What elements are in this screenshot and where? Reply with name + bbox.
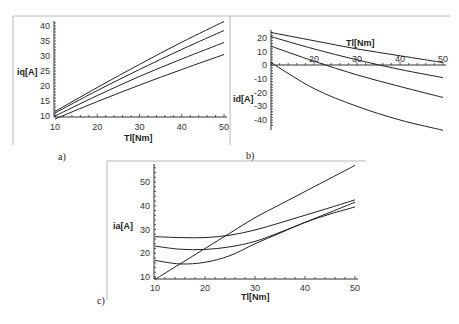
chart-panel-a: 102030405010152025303540 iq[A] Tl[Nm] a) <box>17 21 229 163</box>
panel-c-axes: 10203040501020304050 <box>140 164 360 293</box>
data-curve-curve-2 <box>55 31 224 114</box>
panel-b-xlabel: Tl[Nm] <box>346 38 375 48</box>
y-tick-label: 40 <box>40 21 50 31</box>
y-tick-label: 20 <box>257 33 267 43</box>
x-tick-label: 40 <box>177 122 187 132</box>
panel-b-label: b) <box>246 150 254 162</box>
data-curve-curve-1 <box>55 22 224 112</box>
y-tick-label: 0 <box>262 60 267 70</box>
panel-b-ylabel: id[A] <box>233 94 254 104</box>
y-tick-label: -10 <box>254 74 267 84</box>
data-curve-curve-3 <box>155 207 355 264</box>
x-tick-label: 20 <box>200 283 210 293</box>
y-tick-label: 25 <box>40 66 50 76</box>
x-tick-label: 20 <box>92 122 102 132</box>
panel-a-xlabel: Tl[Nm] <box>124 133 153 143</box>
x-tick-label: 10 <box>150 283 160 293</box>
y-tick-label: 20 <box>40 81 50 91</box>
y-tick-label: 30 <box>140 225 150 235</box>
y-tick-label: 40 <box>140 201 150 211</box>
panel-c-curves <box>155 165 355 279</box>
x-tick-label: 40 <box>300 283 310 293</box>
panel-c-xlabel: Tl[Nm] <box>241 292 270 302</box>
y-tick-label: 35 <box>40 36 50 46</box>
x-tick-label: 30 <box>134 122 144 132</box>
data-curve-curve-4 <box>155 165 355 279</box>
panel-c-label: c) <box>97 295 105 307</box>
y-tick-label: 30 <box>40 51 50 61</box>
y-tick-label: -20 <box>254 88 267 98</box>
y-tick-label: 50 <box>140 177 150 187</box>
x-tick-label: 10 <box>50 122 60 132</box>
y-tick-label: 20 <box>140 248 150 258</box>
panel-a-axes: 102030405010152025303540 <box>40 21 229 132</box>
y-tick-label: 10 <box>140 272 150 282</box>
y-tick-label: 15 <box>40 96 50 106</box>
x-tick-label: 50 <box>219 122 229 132</box>
y-tick-label: 10 <box>257 47 267 57</box>
panel-a-label: a) <box>58 151 66 163</box>
data-curve-curve-3 <box>55 43 224 117</box>
data-curve-curve-1 <box>155 200 355 238</box>
y-tick-label: 10 <box>40 111 50 121</box>
x-tick-label: 50 <box>350 283 360 293</box>
y-tick-label: -30 <box>254 101 267 111</box>
panel-a-ylabel: iq[A] <box>17 67 38 77</box>
figure: 102030405010152025303540 iq[A] Tl[Nm] a)… <box>0 0 459 324</box>
y-tick-label: -40 <box>254 115 267 125</box>
panel-c-ylabel: ia[A] <box>113 221 133 231</box>
chart-panel-c: 10203040501020304050 ia[A] Tl[Nm] c) <box>97 164 360 307</box>
chart-panel-b: 2030405020100-10-20-30-40 id[A] Tl[Nm] b… <box>233 30 448 162</box>
panel-a-curves <box>55 22 224 120</box>
